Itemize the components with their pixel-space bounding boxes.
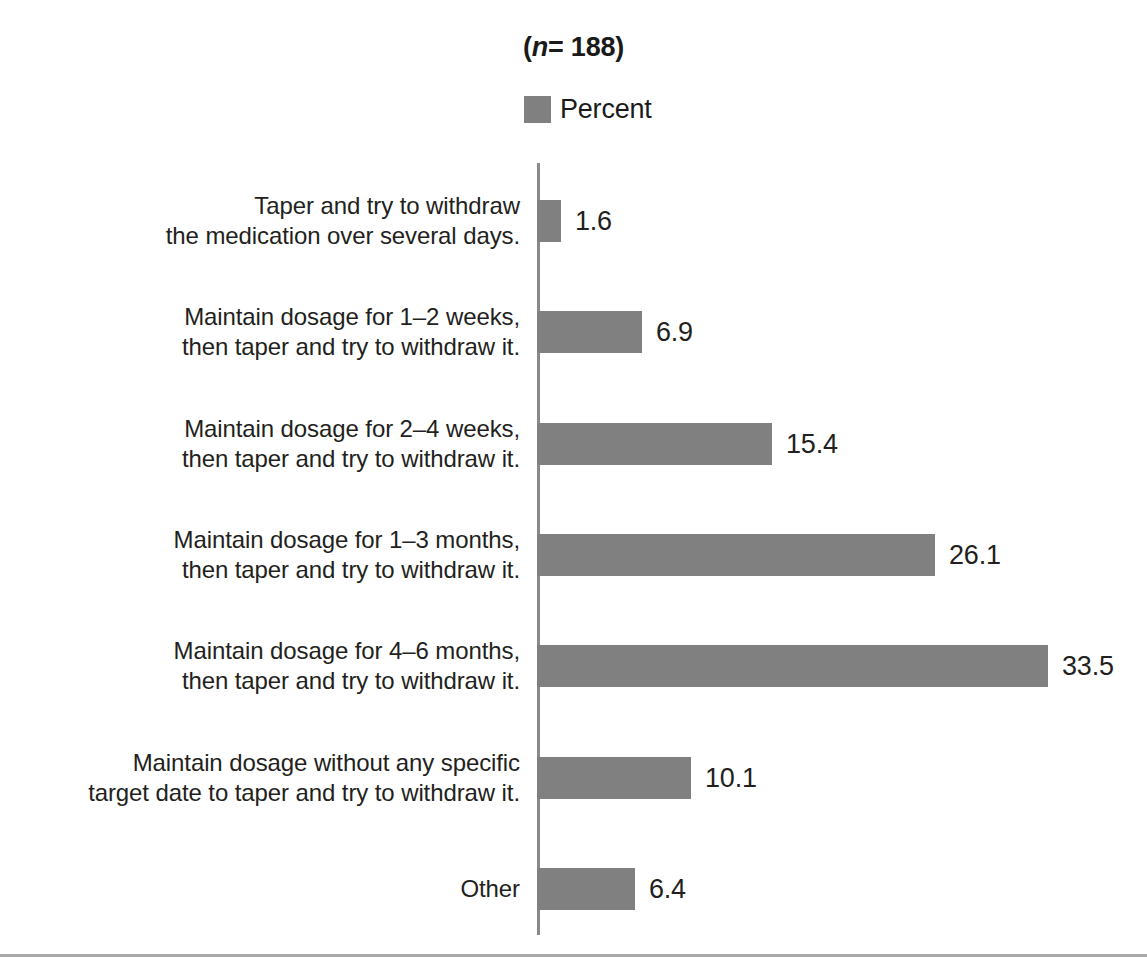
bar[interactable] bbox=[537, 868, 635, 910]
bar-row: Maintain dosage for 1–3 months, then tap… bbox=[0, 534, 1147, 576]
bar[interactable] bbox=[537, 311, 642, 353]
bar-value-label: 10.1 bbox=[705, 762, 757, 793]
bar-row: Maintain dosage for 2–4 weeks, then tape… bbox=[0, 423, 1147, 465]
bar[interactable] bbox=[537, 645, 1048, 687]
bar-value-label: 6.9 bbox=[656, 317, 693, 348]
bar-row: Taper and try to withdraw the medication… bbox=[0, 200, 1147, 242]
bar-category-label: Maintain dosage for 4–6 months, then tap… bbox=[0, 636, 520, 696]
bar[interactable] bbox=[537, 423, 772, 465]
bar-category-label: Other bbox=[0, 874, 520, 904]
bar-category-label: Maintain dosage for 1–2 weeks, then tape… bbox=[0, 302, 520, 362]
footer-divider bbox=[0, 954, 1147, 957]
bar-value-label: 26.1 bbox=[949, 539, 1001, 570]
bar-value-label: 15.4 bbox=[786, 428, 838, 459]
bar-row: Maintain dosage for 1–2 weeks, then tape… bbox=[0, 311, 1147, 353]
bar-row: Maintain dosage without any specific tar… bbox=[0, 757, 1147, 799]
bar-category-label: Maintain dosage without any specific tar… bbox=[0, 748, 520, 808]
bar-category-label: Taper and try to withdraw the medication… bbox=[0, 191, 520, 251]
plot-area: Taper and try to withdraw the medication… bbox=[0, 0, 1147, 971]
bar-value-label: 6.4 bbox=[649, 873, 686, 904]
bar-category-label: Maintain dosage for 1–3 months, then tap… bbox=[0, 525, 520, 585]
chart-figure: (n= 188) Percent Taper and try to withdr… bbox=[0, 0, 1147, 971]
bar[interactable] bbox=[537, 757, 691, 799]
bar-value-label: 1.6 bbox=[575, 206, 612, 237]
bar-row: Other6.4 bbox=[0, 868, 1147, 910]
bar-value-label: 33.5 bbox=[1062, 651, 1114, 682]
bar-row: Maintain dosage for 4–6 months, then tap… bbox=[0, 645, 1147, 687]
bar-category-label: Maintain dosage for 2–4 weeks, then tape… bbox=[0, 414, 520, 474]
bar[interactable] bbox=[537, 200, 561, 242]
bar[interactable] bbox=[537, 534, 935, 576]
